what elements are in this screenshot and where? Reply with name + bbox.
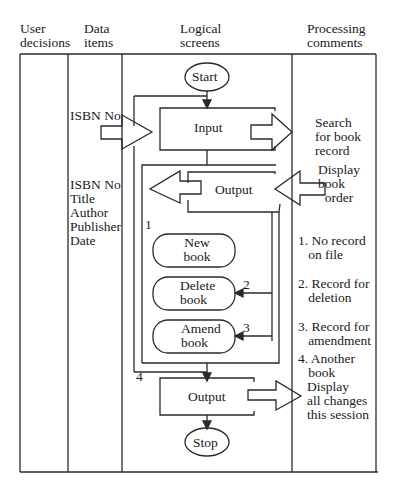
data-item-isbn: ISBN No [70, 109, 121, 123]
branch-label-1: 1 [145, 218, 152, 232]
comment-search: Searchfor bookrecord [315, 116, 361, 158]
comment-2: 2. Record for deletion [298, 277, 370, 305]
header-data-items: Dataitems [84, 22, 113, 50]
comment-display-changes: Displayall changesthis session [307, 380, 369, 422]
new-book-label: Newbook [180, 236, 214, 264]
start-label: Start [192, 70, 218, 84]
stop-label: Stop [193, 436, 218, 450]
comment-display-order: Displaybook order [318, 163, 360, 205]
branch-label-3: 3 [243, 321, 250, 335]
output2-screen-label: Output [188, 390, 226, 404]
delete-book-label: Deletebook [180, 279, 215, 307]
header-processing-comments: Processingcomments [307, 22, 366, 50]
branch-label-4: 4 [136, 370, 143, 384]
comment-1: 1. No record on file [298, 234, 366, 262]
amend-book-label: Amendbook [181, 322, 221, 350]
header-logical-screens: Logicalscreens [180, 22, 221, 50]
data-items-output: ISBN NoTitleAuthorPublisherDate [70, 178, 121, 248]
output-screen-label: Output [215, 183, 253, 197]
comment-4: 4. Another book [298, 352, 355, 380]
input-screen-label: Input [194, 121, 223, 135]
comment-3: 3. Record for amendment [298, 320, 371, 348]
branch-label-2: 2 [243, 278, 250, 292]
header-user-decisions: Userdecisions [20, 22, 70, 50]
